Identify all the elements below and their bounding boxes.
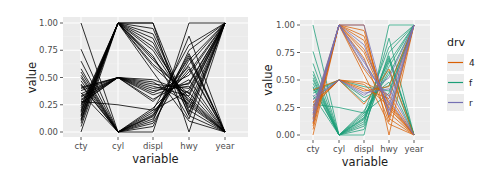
y-tick-label: 0.75: [276, 48, 295, 58]
x-tick-label: year: [405, 144, 424, 154]
x-tick-label: cyl: [333, 144, 345, 154]
y-tick-label: 1.00: [276, 20, 295, 30]
legend-label-f: f: [469, 78, 473, 88]
y-tick-label: 0.50: [276, 75, 295, 85]
y-tick-label: 0.25: [39, 100, 58, 110]
y-tick-label: 0.00: [39, 127, 58, 137]
legend-label-r: r: [469, 98, 473, 108]
y-tick-label: 0.25: [276, 103, 295, 113]
figure: 0.000.250.500.751.00ctycyldisplhwyyearva…: [0, 0, 500, 181]
x-tick-label: cyl: [112, 141, 124, 151]
x-tick-label: displ: [143, 141, 163, 151]
legend-title: drv: [447, 36, 466, 49]
y-tick-label: 0.00: [276, 130, 295, 140]
legend-drv: drv4fr: [447, 36, 475, 111]
y-tick-label: 1.00: [39, 18, 58, 28]
x-tick-label: displ: [354, 144, 374, 154]
y-axis-title: value: [261, 64, 275, 95]
y-tick-label: 0.50: [39, 73, 58, 83]
y-tick-label: 0.75: [39, 45, 58, 55]
chart-left-parallel-coordinates: 0.000.250.500.751.00ctycyldisplhwyyearva…: [25, 17, 248, 166]
x-tick-label: cty: [306, 144, 319, 154]
chart-right-parallel-coordinates-by-drv: 0.000.250.500.751.00ctycyldisplhwyyearva…: [261, 20, 430, 169]
legend-label-4: 4: [469, 58, 475, 68]
x-axis-title: variable: [132, 152, 178, 166]
x-tick-label: hwy: [380, 144, 397, 154]
x-axis-title: variable: [342, 155, 388, 169]
x-tick-label: year: [216, 141, 235, 151]
x-tick-label: cty: [74, 141, 87, 151]
x-tick-label: hwy: [180, 141, 197, 151]
y-axis-title: value: [25, 62, 39, 93]
